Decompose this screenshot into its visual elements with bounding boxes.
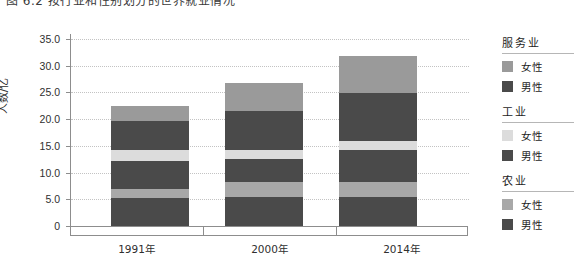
bar-segment[interactable] xyxy=(225,159,303,182)
legend-swatch-icon xyxy=(502,61,513,72)
bar-segment[interactable] xyxy=(339,93,417,141)
bar-stack[interactable] xyxy=(339,39,417,226)
x-axis-label: 2000年 xyxy=(205,241,335,256)
legend-item[interactable]: 女性 xyxy=(502,59,586,74)
y-axis-tick-label: 10.0 xyxy=(0,167,60,179)
bar-segment[interactable] xyxy=(225,83,303,111)
legend-swatch-icon xyxy=(502,130,513,141)
bar-segment[interactable] xyxy=(339,141,417,150)
y-axis-tick-label: 20.0 xyxy=(0,113,60,125)
bar-segment[interactable] xyxy=(225,197,303,226)
legend-item-label: 男性 xyxy=(521,79,542,94)
bar-segment[interactable] xyxy=(111,189,189,199)
legend-item-label: 男性 xyxy=(521,148,542,163)
legend-group-title: 服务业 xyxy=(502,34,574,54)
legend-group-title: 工业 xyxy=(502,103,574,123)
legend-item[interactable]: 女性 xyxy=(502,197,586,212)
chart-figure: 图 6.2 按行业和性别划分的世界就业情况 人数/亿 35.030.025.02… xyxy=(0,0,588,277)
figure-caption: 图 6.2 按行业和性别划分的世界就业情况 xyxy=(6,0,235,8)
bar-segment[interactable] xyxy=(339,150,417,183)
legend-item-label: 男性 xyxy=(521,217,542,232)
bar-segment[interactable] xyxy=(111,161,189,188)
legend-swatch-icon xyxy=(502,219,513,230)
x-axis-separator xyxy=(203,226,204,235)
y-axis-tick-label: 5.0 xyxy=(0,193,60,205)
legend-item[interactable]: 女性 xyxy=(502,128,586,143)
bar-stack[interactable] xyxy=(111,39,189,226)
legend-group: 服务业女性男性 xyxy=(502,34,586,94)
chart-legend: 服务业女性男性工业女性男性农业女性男性 xyxy=(502,34,586,241)
bar-segment[interactable] xyxy=(225,182,303,197)
x-axis-label: 1991年 xyxy=(72,241,202,256)
bar-segment[interactable] xyxy=(339,182,417,197)
y-axis-tick-label: 30.0 xyxy=(0,60,60,72)
legend-item-label: 女性 xyxy=(521,128,542,143)
x-axis-separator xyxy=(336,226,337,235)
legend-group-title: 农业 xyxy=(502,172,574,192)
legend-item-label: 女性 xyxy=(521,197,542,212)
bar-segment[interactable] xyxy=(111,198,189,226)
x-axis-baseline xyxy=(70,235,468,236)
bar-segment[interactable] xyxy=(339,197,417,226)
x-axis-separator xyxy=(467,226,468,235)
y-axis-tick-label: 15.0 xyxy=(0,140,60,152)
bar-stack[interactable] xyxy=(225,39,303,226)
legend-item[interactable]: 男性 xyxy=(502,79,586,94)
y-axis-tick-label: 35.0 xyxy=(0,33,60,45)
legend-swatch-icon xyxy=(502,81,513,92)
bar-segment[interactable] xyxy=(111,150,189,161)
legend-item[interactable]: 男性 xyxy=(502,217,586,232)
y-axis-tick-label: 0 xyxy=(0,220,60,232)
bar-segment[interactable] xyxy=(225,150,303,159)
legend-swatch-icon xyxy=(502,150,513,161)
legend-group: 工业女性男性 xyxy=(502,103,586,163)
plot-area xyxy=(70,34,468,226)
bar-segment[interactable] xyxy=(339,56,417,93)
legend-item[interactable]: 男性 xyxy=(502,148,586,163)
legend-item-label: 女性 xyxy=(521,59,542,74)
y-axis-tick-label: 25.0 xyxy=(0,86,60,98)
bar-segment[interactable] xyxy=(111,106,189,121)
bar-segment[interactable] xyxy=(225,111,303,150)
legend-swatch-icon xyxy=(502,199,513,210)
x-axis-label: 2014年 xyxy=(337,241,467,256)
bar-segment[interactable] xyxy=(111,121,189,150)
x-axis-line xyxy=(70,226,468,227)
x-axis-separator xyxy=(70,226,71,235)
legend-group: 农业女性男性 xyxy=(502,172,586,232)
